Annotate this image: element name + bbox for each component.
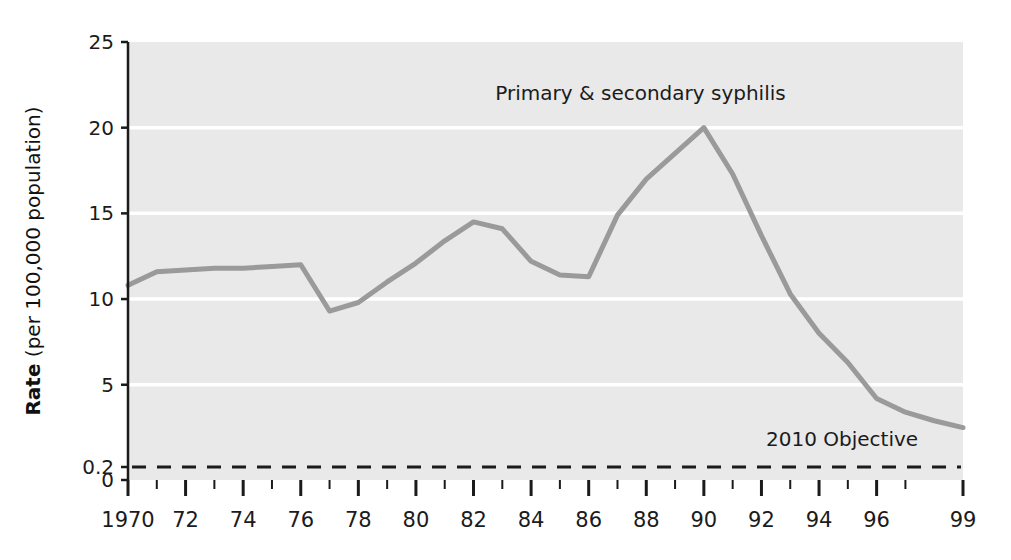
x-axis-tick-label: 86 <box>575 508 602 532</box>
x-axis-tick-label: 94 <box>806 508 833 532</box>
x-axis-tick-label: 88 <box>633 508 660 532</box>
x-axis-tick-label: 96 <box>863 508 890 532</box>
x-axis-tick-label: 99 <box>950 508 977 532</box>
x-axis-tick-label: 72 <box>172 508 199 532</box>
chart-container: 00.2510152025 19707274767880828486889092… <box>0 0 1011 560</box>
x-axis-tick-label: 82 <box>460 508 487 532</box>
y-axis-tick-label: 5 <box>101 373 114 397</box>
y-axis-title-bold: Rate <box>21 364 45 416</box>
annotation-2010-objective: 2010 Objective <box>766 427 918 451</box>
annotation-primary-secondary-syphilis: Primary & secondary syphilis <box>495 81 785 105</box>
y-axis-tick-label: 15 <box>89 201 114 225</box>
y-axis-title: Rate (per 100,000 population) <box>21 106 45 415</box>
x-axis-tick-label: 76 <box>287 508 314 532</box>
x-axis-tick-label: 90 <box>690 508 717 532</box>
x-axis-tick-label: 92 <box>748 508 775 532</box>
x-axis-tick-label: 1970 <box>101 508 154 532</box>
y-axis-tick-label: 10 <box>89 287 114 311</box>
y-axis-title-rest: (per 100,000 population) <box>21 106 45 363</box>
x-axis-tick-label: 84 <box>518 508 545 532</box>
x-axis-tick-label: 78 <box>345 508 372 532</box>
x-axis-tick-label: 80 <box>403 508 430 532</box>
syphilis-rate-line-chart: 00.2510152025 19707274767880828486889092… <box>0 0 1011 560</box>
x-axis-tick-label: 74 <box>230 508 257 532</box>
y-axis-tick-label: 0.2 <box>82 455 114 479</box>
y-axis-tick-label: 25 <box>89 30 114 54</box>
y-axis-title-text: Rate (per 100,000 population) <box>21 106 45 415</box>
y-axis-tick-label: 20 <box>89 116 114 140</box>
plot-area-background <box>128 42 963 480</box>
